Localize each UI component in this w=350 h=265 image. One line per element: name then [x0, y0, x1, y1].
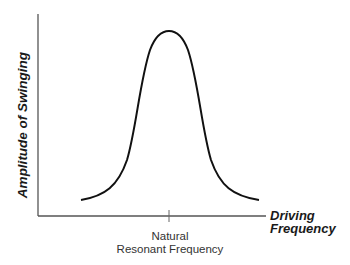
resonant-frequency-label: Natural Resonant Frequency: [110, 230, 230, 256]
y-axis-label: Amplitude of Swinging: [15, 25, 35, 225]
tick-label-line2: Resonant Frequency: [110, 243, 230, 256]
tick-label-line1: Natural: [110, 230, 230, 243]
resonance-curve: [81, 31, 259, 200]
x-axis-label-line2: Frequency: [270, 222, 336, 235]
x-axis-label: Driving Frequency: [270, 209, 336, 235]
